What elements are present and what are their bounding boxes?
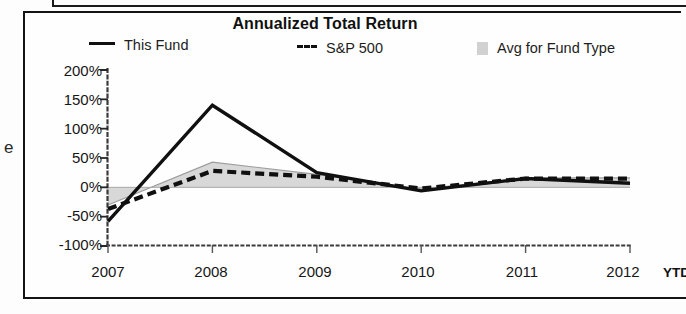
stray-text-glyph: e [4,138,13,158]
gray-area-swatch-icon [477,42,488,55]
xtick-label: 2007 [73,263,143,280]
legend-label-this-fund: This Fund [124,37,188,53]
legend-item-sp500: S&P 500 [297,40,383,56]
ytick-label: 100% [30,120,102,137]
screenshot-root: e Annualized Total Return This Fund S&P … [0,0,686,314]
page-bottom-rule [23,297,686,299]
xtick-label: 2009 [280,263,350,280]
ytd-note: YTD [663,265,686,280]
xtick-label: 2010 [383,263,453,280]
panel-above-border [52,0,686,7]
solid-line-swatch-icon [89,42,115,45]
ytick-label: -100% [30,236,102,253]
chart-title: Annualized Total Return [25,15,625,33]
ytick-label: 0% [30,178,102,195]
ytick-label: 200% [30,62,102,79]
ytick-label: -50% [30,207,102,224]
legend-item-this-fund: This Fund [89,37,188,53]
xtick-label: 2011 [487,263,557,280]
ytick-label: 150% [30,91,102,108]
xtick-label: 2008 [176,263,246,280]
legend-item-avg-fund-type: Avg for Fund Type [477,40,615,56]
dashed-line-swatch-icon [297,45,317,48]
chart-panel: Annualized Total Return This Fund S&P 50… [23,11,681,299]
xtick-label: 2012 [588,263,658,280]
chart-legend: This Fund S&P 500 Avg for Fund Type [25,37,683,63]
legend-label-avg-fund-type: Avg for Fund Type [497,40,615,56]
legend-label-sp500: S&P 500 [326,40,383,56]
ytick-label: 50% [30,149,102,166]
